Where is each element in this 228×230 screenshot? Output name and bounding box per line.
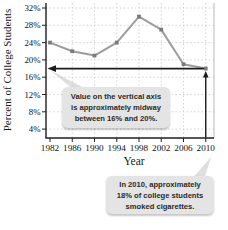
x-tick-label: 2010 bbox=[197, 143, 216, 153]
data-point-marker bbox=[159, 28, 163, 32]
callout-axis-pointer bbox=[50, 70, 83, 88]
y-tick-label: 4% bbox=[29, 124, 41, 134]
data-point-marker bbox=[93, 54, 97, 58]
callout-line: Value on the vertical axis bbox=[62, 91, 170, 102]
up-arrowhead-icon bbox=[203, 71, 209, 78]
x-tick-label: 2002 bbox=[152, 143, 171, 153]
y-tick-label: 16% bbox=[24, 72, 41, 82]
y-tick-label: 28% bbox=[24, 20, 41, 30]
x-tick-label: 1990 bbox=[85, 143, 104, 153]
y-tick-label: 32% bbox=[24, 3, 41, 13]
callout-line: 18% of college students bbox=[106, 190, 214, 201]
x-tick-label: 1986 bbox=[63, 143, 82, 153]
data-point-marker bbox=[182, 62, 186, 66]
callout-line: between 16% and 20%. bbox=[62, 113, 170, 124]
data-point-marker bbox=[70, 49, 74, 53]
y-tick-label: 12% bbox=[24, 90, 41, 100]
data-point-marker bbox=[204, 67, 208, 71]
x-tick-label: 2006 bbox=[174, 143, 193, 153]
x-axis-title: Year bbox=[50, 155, 218, 167]
x-tick-label: 1982 bbox=[41, 143, 60, 153]
x-tick-label: 1998 bbox=[130, 143, 149, 153]
callout-line: smoked cigarettes. bbox=[106, 201, 214, 212]
data-point-marker bbox=[137, 15, 141, 19]
y-tick-label: 8% bbox=[29, 107, 41, 117]
callout-2010-value: In 2010, approximately 18% of college st… bbox=[106, 176, 214, 214]
callout-line: is approximately midway bbox=[62, 102, 170, 113]
y-tick-label: 20% bbox=[24, 55, 41, 65]
data-point-marker bbox=[115, 41, 119, 45]
smoking-line-chart-figure: 4%8%12%16%20%24%28%32%198219861990199419… bbox=[0, 0, 228, 230]
data-point-marker bbox=[48, 41, 52, 45]
y-axis-title: Percent of College Students bbox=[1, 3, 15, 137]
y-tick-label: 24% bbox=[24, 38, 41, 48]
callout-line: In 2010, approximately bbox=[106, 179, 214, 190]
x-tick-label: 1994 bbox=[108, 143, 127, 153]
callout-vertical-axis-value: Value on the vertical axis is approximat… bbox=[62, 87, 170, 128]
